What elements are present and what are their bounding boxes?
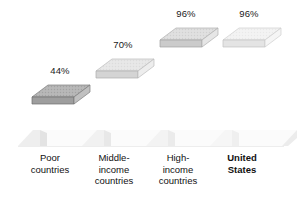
slab-high-income-countries xyxy=(158,26,222,56)
category-label-middle-income-countries: Middle- income countries xyxy=(82,152,146,187)
category-line-2: income xyxy=(82,164,146,176)
category-line-3: countries xyxy=(82,175,146,187)
slab-middle-income-countries xyxy=(94,57,158,87)
category-line-3: countries xyxy=(146,175,210,187)
category-line-1: Poor xyxy=(18,152,82,164)
slab-poor-countries xyxy=(30,83,94,113)
category-label-high-income-countries: High- income countries xyxy=(146,152,210,187)
value-label-poor-countries: 44% xyxy=(34,65,86,76)
value-label-united-states: 96% xyxy=(223,8,275,19)
category-label-united-states: United States xyxy=(210,152,274,175)
category-line-2: income xyxy=(146,164,210,176)
value-label-middle-income-countries: 70% xyxy=(97,39,149,50)
category-label-poor-countries: Poor countries xyxy=(18,152,82,175)
step-chart: 44% 70% 96% 96% xyxy=(0,0,297,198)
category-line-2: countries xyxy=(18,164,82,176)
category-line-1: High- xyxy=(146,152,210,164)
value-label-high-income-countries: 96% xyxy=(160,8,212,19)
category-line-2: States xyxy=(210,164,274,176)
slab-united-states xyxy=(221,26,285,56)
category-line-1: Middle- xyxy=(82,152,146,164)
floor-plane xyxy=(0,124,297,152)
category-line-1: United xyxy=(210,152,274,164)
